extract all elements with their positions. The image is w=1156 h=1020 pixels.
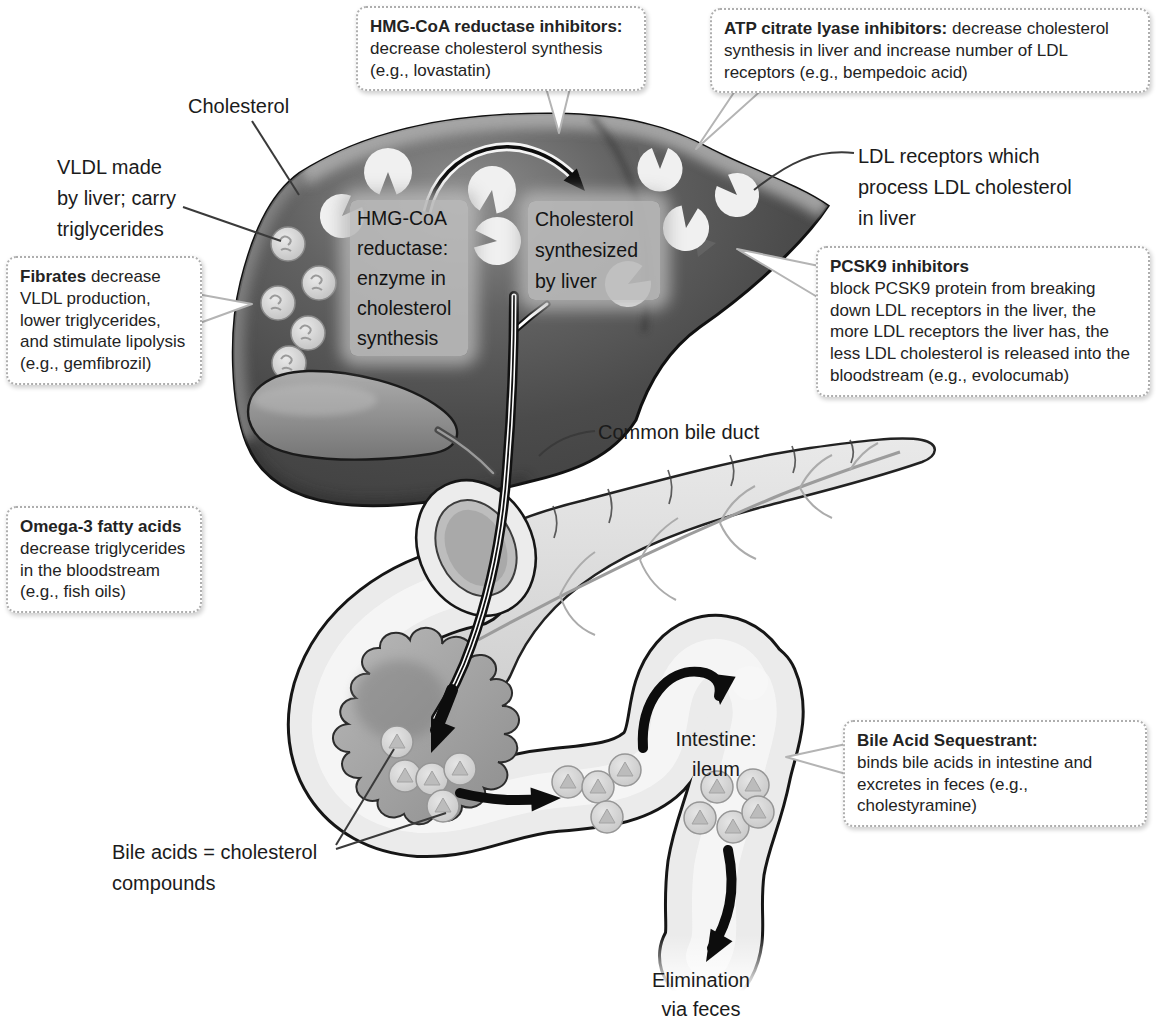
callout-hmg-inhibitors: HMG-CoA reductase inhibitors:decrease ch…: [356, 6, 646, 91]
callout-omega3-body: decrease triglycerides in the bloodstrea…: [20, 539, 185, 602]
callout-atp-citrate-lyase: ATP citrate lyase inhibitors: decrease c…: [710, 8, 1150, 93]
callout-hmg-body: decrease cholesterol synthesis (e.g., lo…: [370, 39, 602, 80]
bile-acid-icon: [552, 766, 584, 798]
bile-acid-icon: [444, 753, 476, 785]
callout-pcsk9-body: block PCSK9 protein from breaking down L…: [830, 279, 1130, 385]
callout-pcsk9-lead: PCSK9 inhibitors: [830, 256, 1136, 278]
liver-box-hmg-reductase: HMG-CoA reductase: enzyme in cholesterol…: [350, 200, 468, 356]
bile-acid-icon: [609, 754, 641, 786]
callout-omega3: Omega-3 fatty acidsdecrease triglyceride…: [6, 506, 202, 613]
vldl-particle-icon: [302, 266, 336, 300]
vldl-particle-icon: [271, 227, 305, 261]
bile-acid-icon: [381, 726, 413, 758]
bile-acid-icon: [742, 796, 774, 828]
label-common-bile-duct: Common bile duct: [598, 417, 759, 448]
callout-omega3-lead: Omega-3 fatty acids: [20, 516, 188, 538]
leader-line-cholesterol: [252, 121, 299, 195]
callout-tail-atp: [696, 88, 764, 149]
callout-pcsk9: PCSK9 inhibitorsblock PCSK9 protein from…: [816, 246, 1150, 397]
callout-bile-sequestrant: Bile Acid Sequestrant:binds bile acids i…: [843, 720, 1147, 827]
callout-fibrates-lead: Fibrates: [20, 267, 86, 286]
bile-acid-icon: [582, 771, 614, 803]
bile-acid-icon: [684, 802, 716, 834]
callout-hmg-lead: HMG-CoA reductase inhibitors:: [370, 16, 632, 38]
callout-bile-sequestrant-body: binds bile acids in intestine and excret…: [857, 753, 1092, 816]
callout-atp-lead: ATP citrate lyase inhibitors:: [724, 19, 947, 38]
label-vldl: VLDL made by liver; carry triglycerides: [57, 152, 176, 245]
callout-bile-sequestrant-lead: Bile Acid Sequestrant:: [857, 730, 1133, 752]
vldl-particle-icon: [261, 286, 295, 320]
label-cholesterol: Cholesterol: [188, 91, 289, 122]
liver-box-cholesterol-synthesized: Cholesterol synthesized by liver: [528, 201, 660, 300]
label-bile-acids: Bile acids = cholesterol compounds: [112, 837, 317, 899]
label-intestine-ileum: Intestine: ileum: [658, 724, 774, 784]
bile-acid-icon: [591, 801, 623, 833]
label-ldl-receptors: LDL receptors which process LDL choleste…: [858, 141, 1072, 234]
vldl-particle-icon: [291, 316, 325, 350]
label-elimination: Elimination via feces: [628, 966, 774, 1020]
callout-fibrates: Fibrates decrease VLDL production, lower…: [6, 256, 202, 385]
